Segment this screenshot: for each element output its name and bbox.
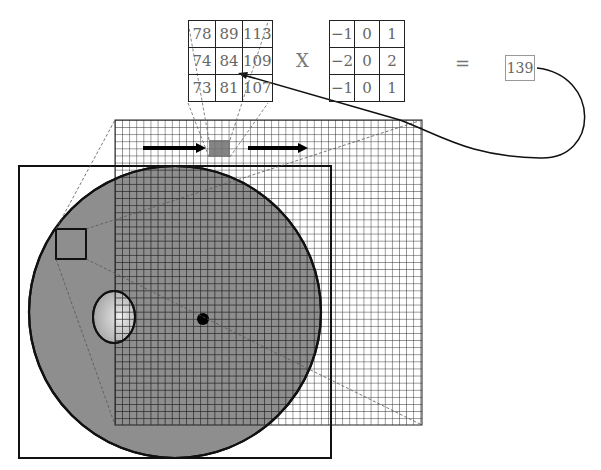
kernel-cell: 1: [380, 75, 405, 102]
matrix-cell-center: 84: [216, 48, 243, 75]
matrix-cell: 109: [243, 48, 273, 75]
highlighted-window: [209, 140, 230, 157]
kernel-row: −1 0 1: [330, 75, 405, 102]
kernel-cell: 0: [355, 21, 380, 48]
kernel-cell: −1: [330, 75, 355, 102]
matrix-row: 73 81 107: [189, 75, 273, 102]
kernel-matrix: −1 0 1 −2 0 2 −1 0 1: [329, 20, 405, 102]
matrix-cell: 81: [216, 75, 243, 102]
kernel-row: −2 0 2: [330, 48, 405, 75]
kernel-cell: −1: [330, 21, 355, 48]
matrix-cell: 78: [189, 21, 216, 48]
kernel-cell: 0: [355, 48, 380, 75]
image-patch-matrix: 78 89 113 74 84 109 73 81 107: [188, 20, 273, 102]
matrix-cell: 107: [243, 75, 273, 102]
kernel-cell: 1: [380, 21, 405, 48]
multiply-operator: X: [296, 50, 309, 71]
matrix-cell: 89: [216, 21, 243, 48]
matrix-cell: 73: [189, 75, 216, 102]
matrix-cell: 113: [243, 21, 273, 48]
kernel-cell: 0: [355, 75, 380, 102]
kernel-cell: −2: [330, 48, 355, 75]
matrix-row: 74 84 109: [189, 48, 273, 75]
equals-operator: =: [455, 53, 470, 74]
kernel-row: −1 0 1: [330, 21, 405, 48]
kernel-cell: 2: [380, 48, 405, 75]
matrix-cell: 74: [189, 48, 216, 75]
matrix-row: 78 89 113: [189, 21, 273, 48]
result-value-box: 139: [505, 55, 535, 81]
